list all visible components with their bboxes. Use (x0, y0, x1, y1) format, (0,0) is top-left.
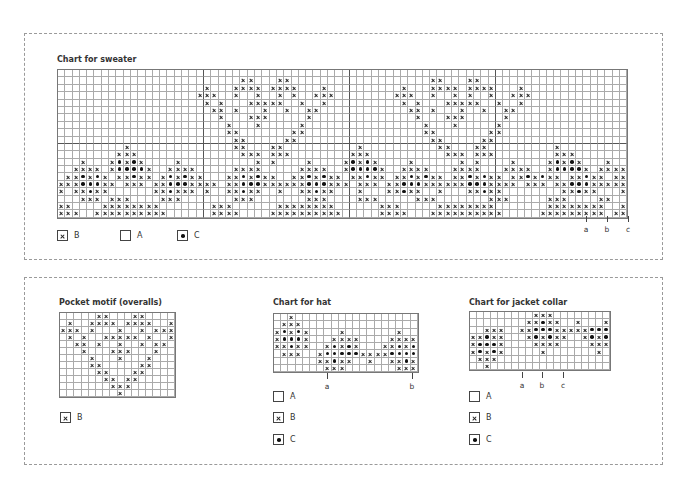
stitch-a (350, 122, 357, 129)
stitch-b (146, 334, 153, 341)
stitch-b (569, 151, 576, 158)
stitch-a (489, 114, 496, 121)
stitch-a (360, 336, 367, 343)
stitch-c (182, 173, 189, 180)
stitch-a (67, 341, 74, 348)
stitch-a (519, 348, 526, 355)
stitch-a (394, 137, 401, 144)
stitch-a (379, 107, 386, 114)
stitch-b (389, 343, 396, 350)
stitch-b (386, 203, 393, 210)
stitch-a (489, 122, 496, 129)
stitch-b (219, 203, 226, 210)
stitch-b (416, 107, 423, 114)
stitch-a (346, 365, 353, 372)
stitch-b (109, 196, 116, 203)
stitch-a (153, 390, 160, 397)
stitch-a (364, 144, 371, 151)
stitch-a (526, 363, 533, 370)
stitch-b (146, 203, 153, 210)
stitch-a (262, 159, 269, 166)
stitch-a (512, 312, 519, 319)
stitch-b (89, 362, 96, 369)
stitch-a (518, 144, 525, 151)
stitch-a (270, 77, 277, 84)
stitch-b (240, 196, 247, 203)
stitch-b (357, 188, 364, 195)
stitch-a (270, 129, 277, 136)
stitch-b (540, 341, 547, 348)
stitch-a (375, 365, 382, 372)
stitch-a (474, 196, 481, 203)
stitch-a (87, 77, 94, 84)
stitch-c (87, 188, 94, 195)
stitch-a (518, 196, 525, 203)
stitch-a (132, 355, 139, 362)
stitch-b (496, 196, 503, 203)
stitch-a (613, 107, 620, 114)
stitch-c (80, 181, 87, 188)
stitch-a (605, 188, 612, 195)
stitch-a (605, 100, 612, 107)
stitch-a (525, 151, 532, 158)
stitch-b (233, 92, 240, 99)
stitch-a (167, 77, 174, 84)
stitch-a (153, 376, 160, 383)
stitch-a (467, 129, 474, 136)
stitch-a (569, 85, 576, 92)
stitch-b (233, 196, 240, 203)
stitch-a (382, 358, 389, 365)
stitch-b (547, 166, 554, 173)
stitch-a (510, 151, 517, 158)
stitch-b (423, 122, 430, 129)
stitch-a (367, 336, 374, 343)
stitch-b (346, 336, 353, 343)
stitch-a (146, 151, 153, 158)
stitch-a (102, 107, 109, 114)
stitch-b (554, 203, 561, 210)
stitch-b (379, 203, 386, 210)
stitch-a (598, 92, 605, 99)
stitch-b (364, 196, 371, 203)
stitch-a (303, 350, 310, 357)
stitch-a (262, 137, 269, 144)
stitch-a (470, 363, 477, 370)
stitch-a (510, 144, 517, 151)
stitch-a (284, 166, 291, 173)
stitch-a (386, 173, 393, 180)
stitch-a (335, 122, 342, 129)
stitch-a (153, 144, 160, 151)
stitch-b (491, 327, 498, 334)
stitch-c (313, 181, 320, 188)
stitch-b (58, 210, 65, 217)
stitch-c (255, 173, 262, 180)
stitch-a (532, 100, 539, 107)
stitch-c (411, 350, 418, 357)
stitch-c (396, 350, 403, 357)
stitch-b (102, 181, 109, 188)
stitch-a (292, 70, 299, 77)
stitch-a (561, 319, 568, 326)
stitch-a (452, 107, 459, 114)
collar-chart-title: Chart for jacket collar (469, 298, 567, 307)
collar-legend-a: A (469, 391, 491, 402)
stitch-a (526, 356, 533, 363)
marker-label: b (410, 382, 415, 391)
stitch-a (519, 334, 526, 341)
stitch-a (554, 114, 561, 121)
stitch-a (94, 122, 101, 129)
stitch-a (60, 369, 67, 376)
stitch-a (139, 348, 146, 355)
stitch-b (89, 355, 96, 362)
stitch-a (583, 137, 590, 144)
stitch-a (613, 159, 620, 166)
stitch-a (394, 144, 401, 151)
stitch-a (547, 100, 554, 107)
stitch-a (116, 85, 123, 92)
stitch-a (255, 210, 262, 217)
stitch-c (131, 159, 138, 166)
stitch-b (569, 188, 576, 195)
stitch-a (569, 92, 576, 99)
stitch-a (367, 321, 374, 328)
sweater-chart-title: Chart for sweater (57, 55, 136, 64)
